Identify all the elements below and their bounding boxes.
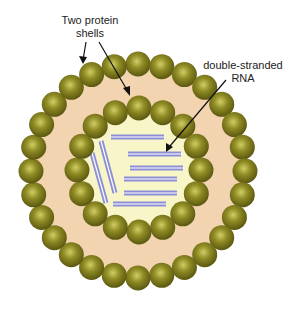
protein-subunit xyxy=(126,52,151,77)
protein-subunit xyxy=(21,135,46,160)
label-double-stranded-rna: double-stranded RNA xyxy=(197,59,289,85)
label-line: RNA xyxy=(197,72,289,85)
protein-subunit xyxy=(172,255,197,280)
protein-subunit xyxy=(102,54,127,79)
protein-subunit xyxy=(230,182,255,207)
label-line: shells xyxy=(60,27,120,40)
protein-subunit xyxy=(103,100,128,125)
arrowhead-outer xyxy=(79,56,87,64)
protein-subunit xyxy=(21,182,46,207)
label-two-protein-shells: Two protein shells xyxy=(60,14,120,40)
protein-subunit xyxy=(149,54,174,79)
label-line: Two protein xyxy=(60,14,120,27)
protein-subunit xyxy=(127,96,152,121)
protein-subunit xyxy=(102,263,127,288)
label-line: double-stranded xyxy=(197,59,289,72)
virus-diagram: Two protein shells double-stranded RNA xyxy=(0,0,298,309)
protein-subunit xyxy=(79,62,104,87)
protein-subunit xyxy=(222,112,247,137)
protein-subunit xyxy=(149,263,174,288)
protein-subunit xyxy=(233,159,258,184)
protein-subunit xyxy=(230,135,255,160)
protein-subunit xyxy=(126,266,151,291)
protein-subunit xyxy=(19,159,44,184)
protein-subunit xyxy=(127,220,152,245)
diagram-canvas xyxy=(0,0,298,309)
protein-subunit xyxy=(150,215,175,240)
protein-subunit xyxy=(65,158,90,183)
protein-subunit xyxy=(189,158,214,183)
protein-subunit xyxy=(29,205,54,230)
protein-subunit xyxy=(184,134,209,159)
protein-subunit xyxy=(69,181,94,206)
